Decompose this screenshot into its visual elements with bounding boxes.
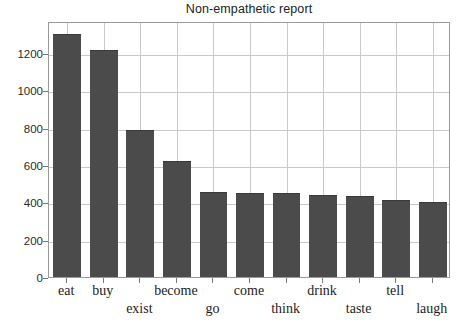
y-axis-tick-mark	[43, 241, 48, 242]
y-axis-tick-label: 1000	[3, 85, 43, 97]
y-axis-tick-label: 800	[3, 123, 43, 135]
y-axis-tick-mark	[43, 91, 48, 92]
x-axis-tick-label: taste	[346, 301, 372, 317]
bar	[90, 50, 118, 277]
bar	[200, 192, 228, 277]
plot-area	[48, 22, 450, 278]
x-axis-tick-label: become	[154, 283, 198, 299]
bar	[273, 193, 301, 277]
x-axis-tick-label: laugh	[416, 301, 447, 317]
y-axis-tick-label: 1200	[3, 48, 43, 60]
y-axis-tick-mark	[43, 54, 48, 55]
x-axis-tick-label: come	[234, 283, 264, 299]
bar	[126, 130, 154, 277]
bar	[382, 200, 410, 277]
x-axis-tick-label: think	[271, 301, 300, 317]
y-axis-tick-label: 600	[3, 160, 43, 172]
y-axis-tick-label: 200	[3, 235, 43, 247]
y-axis-tick-labels: 020040060080010001200	[0, 0, 43, 325]
x-axis-tick-label: tell	[386, 283, 404, 299]
y-axis-tick-marks	[43, 0, 49, 325]
bar	[346, 196, 374, 277]
y-axis-tick-label: 400	[3, 197, 43, 209]
x-axis-tick-label: eat	[58, 283, 74, 299]
x-axis-tick-labels: eatbuyexistbecomegocomethinkdrinktastete…	[0, 278, 460, 325]
bar	[309, 195, 337, 277]
bar	[419, 202, 447, 277]
chart-title: Non-empathetic report	[48, 2, 450, 16]
bar	[236, 193, 264, 277]
y-axis-tick-mark	[43, 203, 48, 204]
bar-chart-figure: Non-empathetic report 020040060080010001…	[0, 0, 460, 325]
y-axis-tick-mark	[43, 129, 48, 130]
y-axis-tick-mark	[43, 166, 48, 167]
x-axis-tick-label: go	[205, 301, 219, 317]
x-axis-tick-label: drink	[307, 283, 337, 299]
x-axis-tick-label: buy	[92, 283, 113, 299]
x-axis-tick-label: exist	[126, 301, 152, 317]
bar	[163, 161, 191, 277]
bar	[53, 34, 81, 277]
